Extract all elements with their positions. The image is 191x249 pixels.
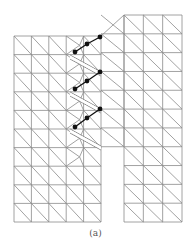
refined-edge xyxy=(80,73,84,82)
left-block-diag xyxy=(49,55,66,74)
crack-slit xyxy=(70,56,101,76)
bridge-diag xyxy=(101,71,124,90)
left-block-diag xyxy=(14,129,31,148)
left-block-diag xyxy=(14,166,31,185)
right-block-diag xyxy=(163,90,182,109)
fem-mesh-diagram xyxy=(0,0,191,249)
left-block-diag xyxy=(84,166,101,185)
refined-edge xyxy=(84,148,101,167)
left-block-diag xyxy=(49,73,66,92)
enriched-node xyxy=(98,107,103,112)
left-block-diag xyxy=(31,110,48,129)
left-block-diag xyxy=(31,55,48,74)
left-block-diag xyxy=(66,166,83,185)
crack-edge xyxy=(70,55,101,72)
left-block-diag xyxy=(14,203,31,222)
right-block-diag xyxy=(143,184,162,203)
right-block-diag xyxy=(143,90,162,109)
left-block-diag xyxy=(31,166,48,185)
left-block-diag xyxy=(49,203,66,222)
refined-edge xyxy=(66,101,79,110)
right-block-diag xyxy=(143,34,162,53)
enriched-node xyxy=(85,42,90,47)
right-block-diag xyxy=(163,34,182,53)
crack-edge xyxy=(70,92,101,109)
left-block-diag xyxy=(14,36,31,55)
crack-slit xyxy=(70,93,101,113)
right-block-diag xyxy=(163,147,182,166)
crack-slit xyxy=(70,130,101,150)
left-block-diag xyxy=(14,73,31,92)
right-block-diag xyxy=(124,53,143,72)
left-block-diag xyxy=(31,92,48,111)
right-block-diag xyxy=(163,128,182,147)
right-block-diag xyxy=(143,147,162,166)
right-block-diag xyxy=(124,34,143,53)
left-block-diag xyxy=(14,148,31,167)
right-block-diag xyxy=(163,71,182,90)
right-block-diag xyxy=(143,15,162,34)
left-block-diag xyxy=(14,110,31,129)
left-block-diag xyxy=(49,92,66,111)
bridge-diag xyxy=(101,53,124,72)
right-block-diag xyxy=(124,128,143,147)
right-block-diag xyxy=(124,15,143,34)
left-block-diag xyxy=(84,185,101,204)
right-block-diag xyxy=(163,109,182,128)
left-block-diag xyxy=(31,73,48,92)
right-block-diag xyxy=(143,109,162,128)
right-block-diag xyxy=(163,53,182,72)
left-block-diag xyxy=(49,129,66,148)
refined-edge xyxy=(66,157,79,166)
refined-edge xyxy=(80,157,84,166)
bridge-diag xyxy=(101,128,124,147)
right-block-diag xyxy=(143,166,162,185)
left-block-diag xyxy=(14,92,31,111)
refined-edge xyxy=(80,36,84,45)
refined-edge xyxy=(80,148,84,157)
bridge-diag xyxy=(101,90,124,109)
figure-caption: (a) xyxy=(0,228,191,238)
left-block-diag xyxy=(31,36,48,55)
refined-edge xyxy=(66,138,79,147)
right-block-diag xyxy=(143,53,162,72)
right-block-diag xyxy=(124,109,143,128)
left-block-diag xyxy=(66,203,83,222)
enriched-node xyxy=(73,87,78,92)
right-block-diag xyxy=(124,184,143,203)
left-block-diag xyxy=(49,36,66,55)
left-block-diag xyxy=(31,185,48,204)
left-block-diag xyxy=(49,148,66,167)
right-block-diag xyxy=(163,184,182,203)
enriched-node xyxy=(73,125,78,130)
left-block-diag xyxy=(49,166,66,185)
bridge-diag xyxy=(101,109,124,128)
right-block-diag xyxy=(163,15,182,34)
left-block-diag xyxy=(49,185,66,204)
left-block-diag xyxy=(31,148,48,167)
left-block-diag xyxy=(31,129,48,148)
right-block-diag xyxy=(163,203,182,222)
enriched-node xyxy=(98,70,103,75)
right-block-diag xyxy=(124,203,143,222)
right-block-diag xyxy=(124,90,143,109)
enriched-node xyxy=(98,35,103,40)
left-block-diag xyxy=(14,55,31,74)
right-block-diag xyxy=(143,128,162,147)
bridge-diag xyxy=(101,34,124,53)
right-block-diag xyxy=(124,147,143,166)
left-block-diag xyxy=(14,185,31,204)
enriched-node xyxy=(85,116,90,121)
right-block-diag xyxy=(124,166,143,185)
right-block-diag xyxy=(143,71,162,90)
left-block-diag xyxy=(84,203,101,222)
left-block-diag xyxy=(31,203,48,222)
right-block-diag xyxy=(124,71,143,90)
refined-edge xyxy=(66,36,79,45)
refined-edge xyxy=(80,110,84,119)
enriched-node xyxy=(85,79,90,84)
refined-edge xyxy=(66,148,79,157)
refined-edge xyxy=(66,110,79,119)
refined-edge xyxy=(66,73,79,82)
refined-edge xyxy=(66,64,79,73)
